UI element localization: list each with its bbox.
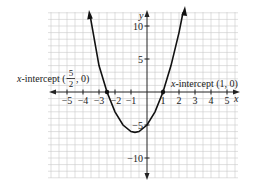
x-axis-left-arrow-icon xyxy=(49,90,56,95)
x-intercept-point-right xyxy=(161,90,165,94)
y-axis-up-arrow-icon xyxy=(145,10,150,17)
y-tick-label: 10 xyxy=(133,21,143,32)
right-intercept-annotation: x-intercept (1, 0) xyxy=(170,78,238,90)
x-tick-label: −3 xyxy=(94,95,105,106)
x-intercept-point-left xyxy=(105,90,109,94)
y-tick-label: −10 xyxy=(127,153,143,164)
curve-left-arrow-icon xyxy=(87,10,93,20)
y-axis-down-arrow-icon xyxy=(145,173,150,180)
x-tick-label: −4 xyxy=(78,95,89,106)
x-tick-label: 5 xyxy=(225,95,230,106)
x-tick-label: −1 xyxy=(126,95,137,106)
fraction-numerator: 5 xyxy=(69,68,74,78)
curve-right-arrow-icon xyxy=(181,6,187,16)
left-intercept-annotation: x-intercept (− 5 2 , 0) xyxy=(16,68,89,89)
x-tick-labels: −5 −4 −3 −2 −1 1 2 3 4 5 xyxy=(62,95,230,106)
x-tick-label: 4 xyxy=(209,95,214,106)
y-axis-label: y xyxy=(138,10,144,21)
x-tick-label: 2 xyxy=(177,95,182,106)
chart-canvas: −5 −4 −3 −2 −1 1 2 3 4 5 10 5 −5 −10 y x… xyxy=(0,0,256,189)
left-intercept-prefix: x-intercept (− xyxy=(16,73,72,85)
left-intercept-suffix: , 0) xyxy=(76,73,89,85)
fraction-denominator: 2 xyxy=(69,79,74,89)
x-tick-label: −5 xyxy=(62,95,73,106)
x-tick-label: 3 xyxy=(193,95,198,106)
y-tick-label: 5 xyxy=(138,54,143,65)
x-axis-label: x xyxy=(233,93,239,104)
